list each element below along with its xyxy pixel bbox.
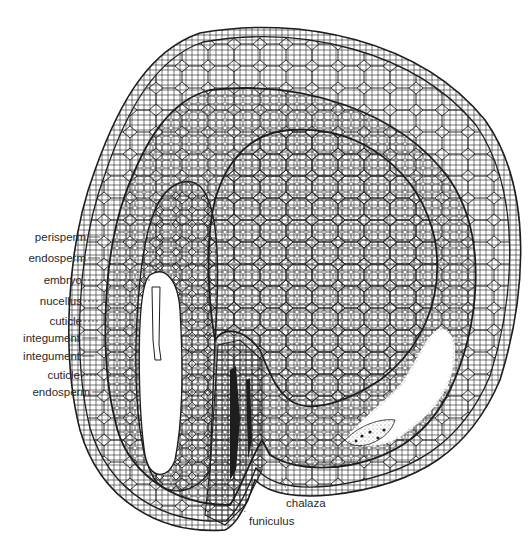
embryo-cavity — [139, 272, 182, 475]
label-chalaza: chalaza — [286, 497, 326, 509]
label-cuticle-lower: cuticle — [47, 369, 80, 381]
label-embryo: embryo — [44, 274, 82, 286]
label-perisperm: perisperm — [35, 231, 86, 243]
label-funiculus: funiculus — [249, 515, 295, 527]
label-integument-inner: integument — [23, 332, 81, 344]
label-nucellus: nucellus — [40, 295, 82, 307]
seed-section-diagram: perisperm endosperm embryo nucellus cuti… — [0, 0, 532, 559]
label-endosperm-lower: endosperm — [32, 386, 90, 398]
label-integument-outer: integument — [23, 350, 81, 362]
label-cuticle-upper: cuticle — [49, 315, 82, 327]
label-endosperm-upper: endosperm — [28, 252, 86, 264]
